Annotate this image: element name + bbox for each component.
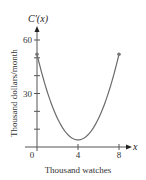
y-tick-label: 60 (23, 35, 33, 45)
y-axis-arrow (35, 26, 40, 32)
function-label: C′(x) (28, 13, 49, 25)
endpoint-marker (35, 52, 39, 56)
curve-c-prime (37, 54, 119, 140)
chart: 0483060 C′(x) x Thousand watches Thousan… (0, 0, 146, 180)
endpoints (35, 52, 121, 56)
x-tick-label: 8 (117, 150, 122, 160)
x-axis-arrow (126, 145, 132, 150)
x-axis-symbol: x (132, 141, 138, 152)
x-axis-title: Thousand watches (45, 165, 112, 175)
endpoint-marker (117, 52, 121, 56)
y-tick-label: 30 (23, 89, 33, 99)
axes (25, 26, 132, 151)
y-axis-title: Thousand dollars/month (9, 49, 19, 137)
x-tick-label: 0 (30, 150, 35, 160)
x-tick-label: 4 (76, 150, 81, 160)
